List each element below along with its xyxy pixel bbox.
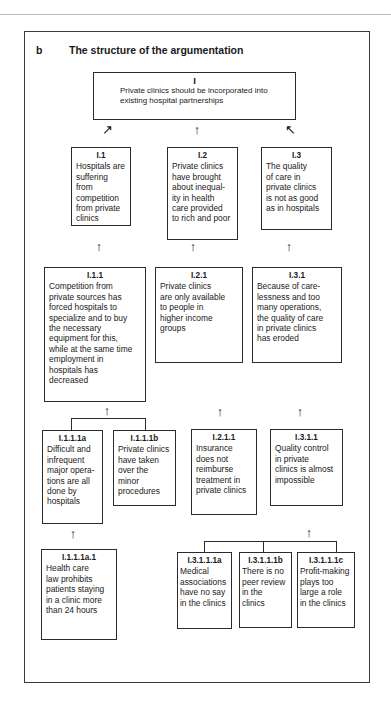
- node-I.3.1.1: I.3.1.1 Quality control in private clini…: [270, 429, 343, 506]
- node-I.3.1.1.1c: I.3.1.1.1c Profit-making plays too large…: [297, 552, 355, 628]
- node-I.2.1.1: I.2.1.1 Insurance does not reimburse tre…: [191, 429, 257, 515]
- bracket-connector: [336, 541, 337, 552]
- node-label: I.2.1: [160, 271, 238, 281]
- node-I.1.1.1a.1: I.1.1.1a.1 Health care law prohibits pat…: [41, 549, 117, 640]
- bracket-connector: [145, 418, 146, 430]
- node-text: Difficult and infrequent major opera- ti…: [47, 444, 98, 506]
- node-label: I.3.1.1.1a: [180, 556, 229, 566]
- node-label: I.3: [266, 151, 327, 161]
- node-label: I.2.1.1: [196, 433, 252, 443]
- node-label: I.1.1.1a.1: [46, 553, 112, 563]
- figure-title: The structure of the argumentation: [69, 44, 243, 56]
- node-label: I.1: [76, 151, 126, 161]
- node-label: I.3.1.1.1b: [242, 556, 289, 566]
- node-text: Profit-making plays too large a role in …: [300, 566, 352, 608]
- node-text: Private clinics have brought about inequ…: [172, 161, 233, 223]
- node-I.1.1.1b: I.1.1.1b Private clinics have taken over…: [113, 430, 176, 506]
- top-divider: [0, 14, 391, 15]
- bracket-connector: [71, 418, 146, 419]
- node-text: Private clinics should be incorporated i…: [98, 86, 291, 106]
- bracket-connector: [204, 541, 205, 552]
- node-label: I.3.1.1.1c: [300, 556, 352, 566]
- node-I.1.1: I.1.1 Competition from private sources h…: [44, 267, 146, 402]
- node-I.3: I.3 The quality of care in private clini…: [261, 147, 332, 230]
- arrow-up-icon: ↑: [302, 526, 316, 539]
- node-text: Medical associations have no say in the …: [180, 566, 229, 608]
- node-I.3.1.1.1b: I.3.1.1.1b There is no peer review in th…: [239, 552, 292, 628]
- arrow-up-icon: ↑: [190, 123, 204, 136]
- node-I.1.1.1a: I.1.1.1a Difficult and infrequent major …: [42, 430, 103, 524]
- arrow-up-right-icon: ↗: [100, 123, 114, 136]
- node-text: Hospitals are suffering from competition…: [76, 161, 126, 223]
- node-I.1: I.1 Hospitals are suffering from competi…: [71, 147, 131, 226]
- node-label: I.1.1.1a: [47, 434, 98, 444]
- bracket-connector: [263, 541, 264, 552]
- node-label: I.2: [172, 151, 233, 161]
- figure-panel-letter: b: [36, 44, 42, 56]
- node-I.2.1: I.2.1 Private clinics are only available…: [155, 267, 243, 363]
- node-text: Insurance does not reimburse treatment i…: [196, 443, 252, 495]
- node-I.2: I.2 Private clinics have brought about i…: [167, 147, 238, 240]
- node-I.3.1.1.1a: I.3.1.1.1a Medical associations have no …: [177, 552, 232, 629]
- arrow-up-icon: ↑: [213, 405, 227, 418]
- arrow-up-icon: ↑: [186, 240, 200, 253]
- node-text: Because of care- lessness and too many o…: [257, 281, 337, 343]
- node-text: Health care law prohibits patients stayi…: [46, 563, 112, 615]
- node-I: I Private clinics should be incorporated…: [93, 72, 296, 120]
- node-text: Quality control in private clinics is al…: [275, 443, 338, 485]
- node-text: Competition from private sources has for…: [49, 281, 141, 385]
- node-label: I: [98, 76, 291, 86]
- node-I.3.1: I.3.1 Because of care- lessness and too …: [252, 267, 342, 363]
- bracket-connector: [71, 418, 72, 430]
- arrow-up-icon: ↑: [66, 527, 80, 540]
- node-label: I.1.1: [49, 271, 141, 281]
- node-label: I.3.1.1: [275, 433, 338, 443]
- arrow-up-left-icon: ↖: [283, 123, 297, 136]
- arrow-up-icon: ↑: [100, 404, 114, 417]
- node-label: I.3.1: [257, 271, 337, 281]
- node-text: Private clinics are only available to pe…: [160, 281, 238, 333]
- node-text: There is no peer review in the clinics: [242, 566, 289, 608]
- arrow-up-icon: ↑: [92, 240, 106, 253]
- arrow-up-icon: ↑: [293, 405, 307, 418]
- arrow-up-icon: ↑: [282, 240, 296, 253]
- node-text: The quality of care in private clinics i…: [266, 161, 327, 213]
- node-label: I.1.1.1b: [118, 434, 171, 444]
- bracket-connector: [204, 541, 337, 542]
- node-text: Private clinics have taken over the mino…: [118, 444, 171, 496]
